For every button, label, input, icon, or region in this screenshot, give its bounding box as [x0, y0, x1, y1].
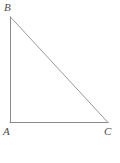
- vertex-label-b: B: [4, 2, 11, 13]
- triangle-side-bc: [11, 17, 109, 123]
- diagram-page: B A C C. 16 m: [0, 0, 120, 163]
- answer-choice-row: C. 16 m: [0, 126, 120, 163]
